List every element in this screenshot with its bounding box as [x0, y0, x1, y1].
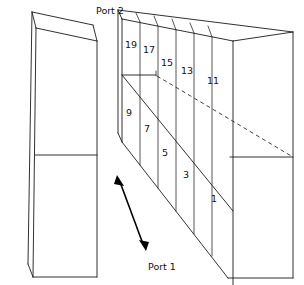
- left-block-top-front-edge: [36, 28, 97, 41]
- port1-label: Port 1: [148, 262, 176, 272]
- cell-label-7: 7: [144, 124, 150, 134]
- left-block-bottom-left-edge: [28, 264, 33, 277]
- slice-top-divider-1: [136, 13, 140, 22]
- cell-label-9: 9: [126, 108, 132, 118]
- cell-label-1: 1: [211, 194, 217, 204]
- slice-top-divider-3: [172, 19, 176, 30]
- right-block-bottom-left-edge: [118, 133, 122, 142]
- left-block-back-left-vertical: [28, 12, 32, 264]
- interior-edge-solid: [122, 75, 233, 211]
- slice-top-divider-2: [154, 16, 158, 26]
- cell-label-13: 13: [181, 66, 193, 76]
- cell-label-5: 5: [162, 148, 168, 158]
- slice-top-divider-5: [208, 26, 212, 37]
- arrow-head-lower: [139, 240, 149, 251]
- right-block-top-right-edge: [233, 32, 293, 41]
- arrow-head-upper: [114, 175, 124, 186]
- diagram-canvas: [0, 0, 304, 285]
- slice-top-divider-4: [190, 23, 194, 33]
- right-block-top-back-edge: [118, 10, 293, 32]
- port1-double-arrow: [114, 175, 149, 251]
- cell-label-15: 15: [161, 58, 173, 68]
- cell-label-19: 19: [125, 40, 137, 50]
- left-block-top-right-edge: [93, 25, 97, 41]
- cell-label-11: 11: [207, 76, 219, 86]
- cell-label-17: 17: [143, 45, 155, 55]
- technical-diagram: 19 17 15 13 11 9 7 5 3 1 Port 2 Port 1: [0, 0, 304, 285]
- cell-label-3: 3: [183, 170, 189, 180]
- left-rectangular-block: [28, 12, 97, 277]
- hidden-interior-edge-dashed: [157, 76, 293, 157]
- left-block-top-left-edge: [32, 12, 36, 28]
- left-block-front-left-vertical: [33, 28, 36, 277]
- arrow-shaft: [120, 182, 143, 244]
- port2-label: Port 2: [96, 6, 124, 16]
- left-block-top-back-edge: [32, 12, 93, 25]
